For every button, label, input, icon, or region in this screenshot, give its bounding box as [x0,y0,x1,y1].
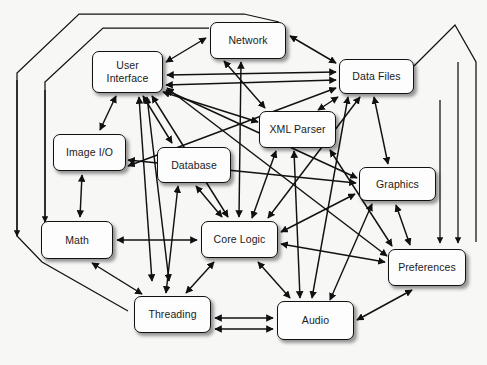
edge-core-logic-graphics [281,194,355,232]
node-core-logic[interactable]: Core Logic [201,221,278,258]
edge-image-io-math [80,175,82,217]
edge-data-files-graphics [374,97,388,164]
edge-graphics-audio [330,204,372,300]
node-preferences-label: Preferences [395,261,459,274]
edge-xml-parser-core-logic [252,151,276,218]
edge-network-core-logic [239,62,241,217]
node-data-files-label: Data Files [349,70,403,83]
node-xml-parser[interactable]: XML Parser [259,111,336,148]
edge-core-logic-preferences [281,244,385,262]
edge-data-files-xml-parser [318,97,338,110]
edge-audio-preferences [357,290,412,320]
node-graphics[interactable]: Graphics [359,167,436,201]
node-threading[interactable]: Threading [134,296,211,333]
node-image-io[interactable]: Image I/O [53,134,126,171]
edge-math-threading [92,263,142,294]
diagram-canvas: Network UserInterface Data Files XML Par… [0,0,487,365]
node-core-logic-label: Core Logic [211,233,269,246]
node-user-interface-label: UserInterface [104,59,152,85]
node-graphics-label: Graphics [373,178,422,191]
edge-core-logic-audio [258,262,290,298]
node-math[interactable]: Math [41,221,113,259]
edge-core-logic-threading [186,262,214,293]
node-threading-label: Threading [145,308,199,321]
edge-user-interface-data-files-2 [166,80,336,85]
edge-network-xml-parser [224,61,265,108]
node-xml-parser-label: XML Parser [266,123,328,136]
node-database[interactable]: Database [157,147,231,183]
edge-user-interface-data-files [167,72,336,75]
node-network-label: Network [225,34,270,47]
node-network[interactable]: Network [210,22,286,59]
node-audio-label: Audio [299,314,332,327]
node-user-interface[interactable]: UserInterface [92,51,163,93]
edge-graphics-preferences [396,205,410,245]
node-image-io-label: Image I/O [63,146,116,159]
node-audio[interactable]: Audio [277,301,354,340]
edge-user-interface-network [166,38,206,62]
edge-user-interface-image-io [100,96,116,130]
node-database-label: Database [168,159,220,172]
perimeter-right [414,25,476,242]
node-math-label: Math [62,234,92,247]
node-data-files[interactable]: Data Files [339,59,414,94]
edge-network-data-files [290,36,336,63]
node-preferences[interactable]: Preferences [388,249,466,286]
